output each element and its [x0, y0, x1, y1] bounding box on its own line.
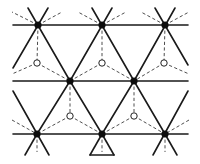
filled-sites	[33, 21, 168, 137]
dashed-bond-line	[164, 25, 165, 63]
solid-bond-line	[102, 81, 134, 134]
solid-bond-line	[37, 81, 70, 134]
filled-site-dot	[130, 77, 137, 84]
open-site-circle	[131, 113, 137, 119]
solid-bond-line	[155, 8, 188, 65]
filled-site-dot	[161, 21, 168, 28]
solid-bond-line	[90, 134, 102, 155]
solid-bond-line	[134, 81, 165, 134]
filled-site-dot	[161, 130, 168, 137]
open-site-circle	[34, 60, 40, 66]
solid-bond-line	[13, 8, 48, 68]
filled-site-dot	[34, 21, 41, 28]
open-site-circle	[161, 60, 167, 66]
solid-bond-line	[102, 134, 114, 155]
open-site-circle	[67, 113, 73, 119]
filled-site-dot	[33, 130, 40, 137]
open-site-circle	[99, 60, 105, 66]
dashed-bond-line	[164, 63, 189, 74]
solid-bond-line	[70, 81, 102, 134]
solid-bond-line	[165, 134, 177, 155]
filled-site-dot	[98, 130, 105, 137]
filled-site-dot	[66, 77, 73, 84]
dashed-bond-line	[37, 25, 38, 63]
open-sites	[34, 60, 167, 119]
solid-bond-line	[25, 134, 37, 155]
triangular-lattice-diagram	[0, 0, 200, 164]
filled-site-dot	[98, 21, 105, 28]
